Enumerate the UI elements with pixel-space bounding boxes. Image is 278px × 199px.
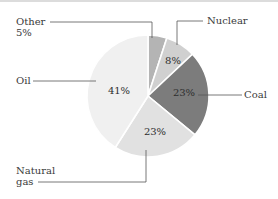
pct-label-coal: 23% [173,87,195,98]
label-other-pct: 5% [16,27,45,38]
label-oil: Oil [16,75,31,86]
label-natural-gas-line2: gas [16,176,55,187]
pct-label-nuclear: 8% [165,55,181,66]
pct-label-oil: 41% [108,85,130,96]
label-nuclear: Nuclear [207,15,248,26]
label-coal: Coal [244,89,267,100]
label-other-name: Other [16,16,45,27]
label-natural-gas-line1: Natural [16,165,55,176]
pct-label-natural-gas: 23% [144,126,166,137]
label-other: Other 5% [16,16,45,38]
leader-line-nuclear [177,21,203,45]
label-natural-gas: Natural gas [16,165,55,187]
